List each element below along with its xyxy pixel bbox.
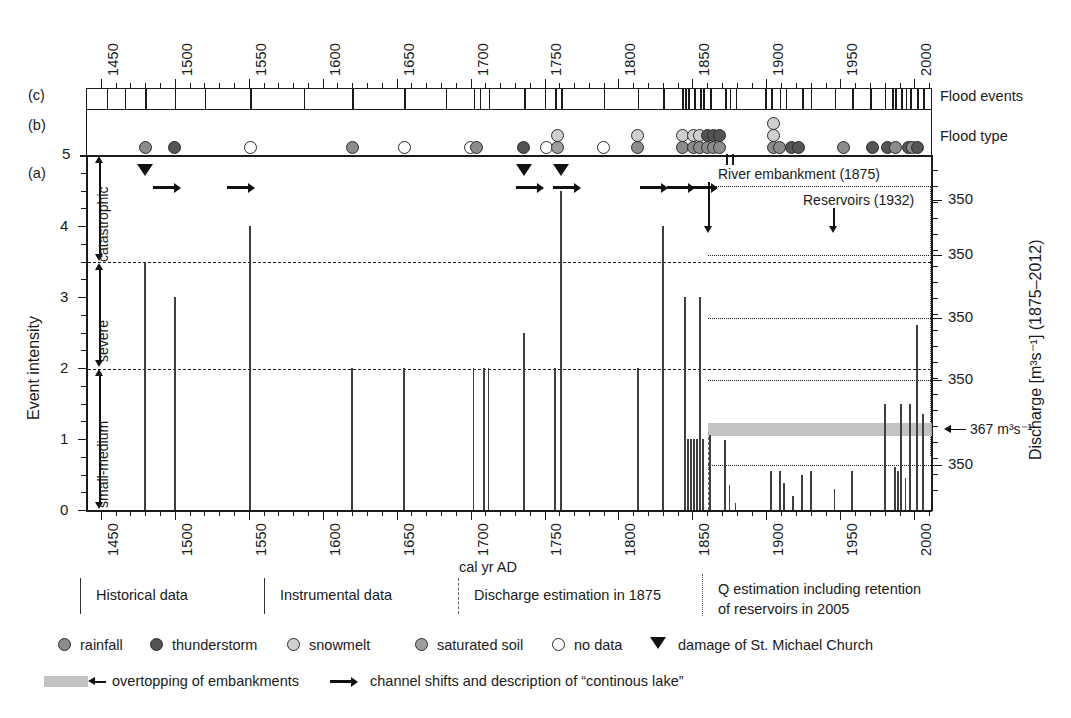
y2minor-tick: [932, 186, 938, 187]
legend-dot-no-data: [552, 638, 565, 651]
flood-event-tick-1985: [892, 89, 894, 109]
yminor-tick: [81, 492, 87, 493]
y2minor-tick: [932, 250, 938, 251]
panel-tag-a: (a): [28, 166, 46, 181]
class-boundary-2: [88, 369, 931, 370]
ytick-3: [78, 297, 87, 298]
xminor-tick-1550: [249, 79, 250, 88]
intensity-bar-1924: [801, 475, 803, 511]
intensity-bar-1757: [554, 368, 556, 510]
period-sep-3: [458, 578, 459, 614]
intensity-bar-1879: [735, 503, 737, 510]
ytick-label-4: 4: [60, 218, 68, 233]
xminor-tick-1820: [648, 511, 649, 516]
channel-shift-arrow-head-1545: [248, 183, 255, 193]
figure-root: (c) (b) (a) Flood events Flood type 1450…: [0, 0, 1071, 718]
panel-tag-c: (c): [28, 88, 45, 103]
xminor-tick-1820: [648, 83, 649, 88]
xminor-tick-1860: [707, 83, 708, 88]
top-xtick-1650: 1650: [402, 43, 417, 76]
xminor-tick-1680: [441, 83, 442, 88]
legend-overtopping-label: overtopping of embankments: [112, 674, 299, 689]
flood-event-tick-1520: [205, 89, 207, 109]
y2tick-0: [932, 200, 942, 201]
flood-event-tick-1946: [835, 89, 837, 109]
y2minor-tick: [932, 362, 938, 363]
xminor-tick-1670: [426, 83, 427, 88]
church-damage-marker-1761: [553, 164, 569, 176]
yminor-tick: [81, 279, 87, 280]
y2minor-tick: [932, 378, 938, 379]
y2tick-5: [932, 465, 942, 466]
flood-type-label: Flood type: [940, 129, 1008, 144]
yminor-tick: [81, 386, 87, 387]
xminor-tick-1650: [397, 79, 398, 88]
xminor-tick-1520: [204, 83, 205, 88]
discharge-refline-3: [708, 380, 933, 381]
xminor-tick-1460: [116, 83, 117, 88]
xminor-tick-1760: [559, 511, 560, 516]
yminor-tick: [81, 191, 87, 192]
y2minor-tick: [932, 442, 938, 443]
xminor-tick-1470: [130, 511, 131, 516]
bottom-xtick-1850: 1850: [697, 523, 712, 556]
xminor-tick-1800: [618, 511, 619, 520]
bottom-xtick-1500: 1500: [180, 523, 195, 556]
xminor-tick-1930: [811, 511, 812, 516]
yminor-tick: [81, 404, 87, 405]
intensity-bar-1946: [834, 489, 836, 510]
class-arrow-up-severe: [95, 263, 103, 270]
xminor-tick-1520: [204, 511, 205, 516]
period-label-discharge-1875: Discharge estimation in 1875: [474, 588, 661, 603]
intensity-bar-1849: [690, 439, 692, 510]
intensity-bar-1500: [174, 297, 176, 510]
xminor-tick-1630: [367, 511, 368, 516]
xminor-tick-1760: [559, 83, 560, 88]
intensity-bar-1903: [770, 471, 772, 510]
flood-event-tick-1913: [786, 89, 788, 109]
intensity-bar-1912: [783, 483, 785, 510]
xminor-tick-1710: [485, 83, 486, 88]
intensity-bar-1930: [810, 471, 812, 510]
intensity-bar-1845: [684, 297, 686, 510]
xminor-tick-1920: [796, 511, 797, 516]
xminor-tick-1940: [826, 83, 827, 88]
flood-event-tick-1843: [682, 89, 684, 109]
xminor-tick-1580: [293, 511, 294, 516]
intensity-bar-1847: [687, 439, 689, 510]
flood-event-tick-1551: [250, 89, 252, 109]
xminor-tick-1580: [293, 83, 294, 88]
y2tick-1: [932, 255, 942, 256]
xminor-tick-1600: [323, 79, 324, 88]
flood-event-tick-1958: [852, 89, 854, 109]
y-axis-right-title: Discharge [m³s⁻¹] (1875–2012): [1028, 239, 1044, 460]
intensity-bar-1761: [560, 191, 562, 511]
flood-type-dot-thunderstorm-1972: [866, 141, 879, 154]
annotation-river-embankment-stem: [708, 182, 710, 228]
xminor-tick-1510: [190, 83, 191, 88]
annotation-reservoirs-head: [829, 226, 837, 233]
top-xtick-1950: 1950: [845, 43, 860, 76]
top-xtick-2000: 2000: [919, 43, 934, 76]
xminor-tick-1590: [308, 83, 309, 88]
xminor-tick-1710: [485, 511, 486, 516]
flood-event-tick-1909: [780, 89, 782, 109]
xminor-tick-1670: [426, 511, 427, 516]
period-sep-2: [264, 578, 265, 614]
xminor-tick-1860: [707, 511, 708, 516]
intensity-bar-1857: [702, 439, 704, 510]
xminor-tick-1700: [471, 79, 472, 88]
flood-event-tick-1454: [107, 89, 109, 109]
flood-event-tick-1683: [446, 89, 448, 109]
annotation-reservoirs-stem: [833, 208, 835, 228]
xminor-tick-1970: [870, 83, 871, 88]
discharge-367-arrow-head: [944, 425, 951, 433]
flood-event-tick-1702: [474, 89, 476, 109]
flood-event-tick-1903: [771, 89, 773, 109]
flood-event-tick-1857: [703, 89, 705, 109]
bottom-xtick-1700: 1700: [476, 523, 491, 556]
flood-type-dot-no data-1551: [244, 141, 257, 154]
intensity-bar-1994: [905, 478, 907, 510]
y2minor-tick: [932, 314, 938, 315]
period-label-instrumental: Instrumental data: [280, 588, 392, 603]
